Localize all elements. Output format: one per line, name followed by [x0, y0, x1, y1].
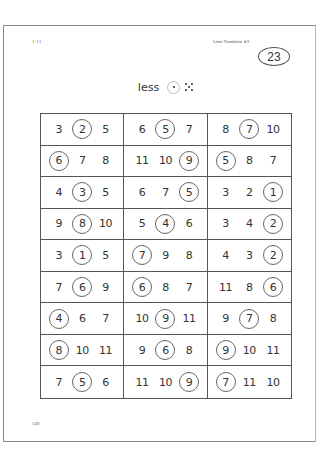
number: 9	[49, 214, 69, 234]
grid-cell: 81011	[41, 335, 124, 367]
circled-number: 6	[72, 277, 92, 297]
circled-number: 7	[239, 309, 259, 329]
number: 11	[239, 372, 259, 392]
circled-number: 2	[72, 119, 92, 139]
number: 10	[263, 372, 283, 392]
page-number: 148	[32, 421, 40, 426]
circled-number: 7	[239, 119, 259, 139]
circled-number: 3	[72, 182, 92, 202]
grid-cell: 675	[124, 177, 207, 209]
worksheet-page: 1-11 Less Numbers #3 23 less 32565787106…	[3, 25, 316, 442]
dot-icon	[191, 89, 193, 91]
number: 6	[132, 119, 152, 139]
grid-cell: 11109	[124, 366, 207, 398]
circled-number: 1	[72, 245, 92, 265]
circled-number: 2	[263, 245, 283, 265]
number: 4	[239, 214, 259, 234]
number: 3	[49, 119, 69, 139]
circled-number: 5	[216, 151, 236, 171]
number: 6	[96, 372, 116, 392]
number: 9	[216, 309, 236, 329]
number: 4	[216, 245, 236, 265]
circled-number: 4	[155, 214, 175, 234]
number: 5	[96, 119, 116, 139]
number: 10	[132, 309, 152, 329]
number: 7	[179, 119, 199, 139]
header-title: Less Numbers #3	[213, 39, 249, 44]
number: 7	[96, 309, 116, 329]
grid-cell: 315	[41, 240, 124, 272]
number: 8	[179, 245, 199, 265]
circled-number: 5	[72, 372, 92, 392]
circled-number: 6	[49, 151, 69, 171]
circled-number: 9	[216, 340, 236, 360]
number: 11	[263, 340, 283, 360]
grid-cell: 432	[208, 240, 291, 272]
number-grid: 3256578710678111095874356753219810546342…	[40, 113, 292, 399]
number: 3	[239, 245, 259, 265]
circled-number: 8	[72, 214, 92, 234]
number: 5	[96, 245, 116, 265]
grid-cell: 678	[41, 146, 124, 178]
number: 8	[155, 277, 175, 297]
number: 3	[216, 214, 236, 234]
header-code: 1-11	[32, 39, 42, 44]
dot-icon	[185, 89, 187, 91]
grid-cell: 756	[41, 366, 124, 398]
number: 7	[263, 151, 283, 171]
grid-cell: 978	[208, 303, 291, 335]
grid-cell: 687	[124, 272, 207, 304]
grid-cell: 325	[41, 114, 124, 146]
number: 8	[263, 309, 283, 329]
circled-number: 1	[263, 182, 283, 202]
number: 7	[179, 277, 199, 297]
grid-cell: 10911	[124, 303, 207, 335]
circled-one-dot-icon	[167, 81, 180, 94]
circled-number: 5	[179, 182, 199, 202]
number: 11	[132, 151, 152, 171]
circled-number: 5	[155, 119, 175, 139]
number: 2	[239, 182, 259, 202]
number: 10	[155, 151, 175, 171]
grid-cell: 71110	[208, 366, 291, 398]
number: 8	[216, 119, 236, 139]
circled-number: 4	[49, 309, 69, 329]
number: 9	[96, 277, 116, 297]
number: 8	[179, 340, 199, 360]
dot-icon	[191, 83, 193, 85]
number: 3	[49, 245, 69, 265]
number: 9	[132, 340, 152, 360]
number: 5	[132, 214, 152, 234]
circled-number: 8	[49, 340, 69, 360]
dot-icon	[188, 86, 190, 88]
grid-cell: 769	[41, 272, 124, 304]
circled-number: 7	[132, 245, 152, 265]
number: 7	[72, 151, 92, 171]
number: 8	[96, 151, 116, 171]
circled-number: 9	[179, 151, 199, 171]
circled-number: 2	[263, 214, 283, 234]
number: 11	[132, 372, 152, 392]
number: 10	[72, 340, 92, 360]
grid-cell: 8710	[208, 114, 291, 146]
number: 4	[49, 182, 69, 202]
page-badge: 23	[258, 47, 290, 66]
circled-number: 7	[216, 372, 236, 392]
number: 10	[263, 119, 283, 139]
circled-number: 9	[155, 309, 175, 329]
number: 7	[49, 372, 69, 392]
number: 6	[72, 309, 92, 329]
number: 11	[96, 340, 116, 360]
number: 10	[239, 340, 259, 360]
grid-cell: 798	[124, 240, 207, 272]
number: 7	[155, 182, 175, 202]
number: 10	[155, 372, 175, 392]
grid-cell: 546	[124, 209, 207, 241]
circled-number: 6	[155, 340, 175, 360]
grid-cell: 11109	[124, 146, 207, 178]
grid-cell: 435	[41, 177, 124, 209]
number: 11	[179, 309, 199, 329]
five-dots-icon	[185, 83, 193, 91]
instruction-row: less	[4, 78, 315, 96]
number: 7	[49, 277, 69, 297]
